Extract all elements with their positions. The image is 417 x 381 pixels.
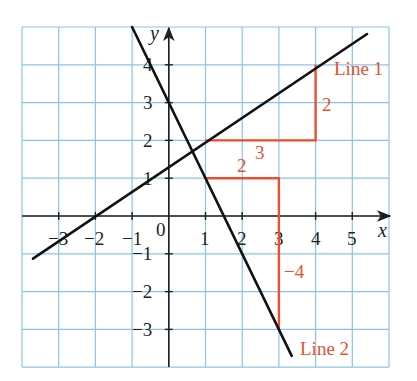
y-tick-label: 2	[143, 130, 153, 151]
line-1	[33, 34, 367, 259]
origin-label: 0	[156, 219, 166, 240]
line2-rise-label: −4	[284, 261, 305, 282]
x-tick-labels: −3 −2 −1 0 1 2 3 4 5	[48, 219, 357, 249]
x-tick-label: 4	[311, 228, 321, 249]
coordinate-plot: y x −3 −2 −1 0 1 2 3 4 5 4 3 2 1 −1 −2 −…	[0, 0, 417, 381]
y-axis-label: y	[148, 22, 159, 45]
y-tick-label: −2	[132, 281, 152, 302]
x-tick-label: 1	[200, 228, 210, 249]
y-tick-label: −1	[132, 243, 152, 264]
line2-label: Line 2	[300, 338, 349, 359]
line1-run-label: 3	[255, 142, 265, 163]
line1-label: Line 1	[334, 58, 383, 79]
x-tick-label: −2	[84, 228, 104, 249]
x-axis-label: x	[377, 219, 387, 241]
line2-run-label: 2	[237, 155, 247, 176]
x-tick-label: 5	[347, 228, 357, 249]
y-tick-labels: 4 3 2 1 −1 −2 −3	[132, 54, 153, 340]
y-tick-label: 3	[143, 92, 153, 113]
line-2	[132, 27, 292, 356]
y-tick-label: −3	[132, 319, 152, 340]
line1-rise-label: 2	[322, 94, 332, 115]
